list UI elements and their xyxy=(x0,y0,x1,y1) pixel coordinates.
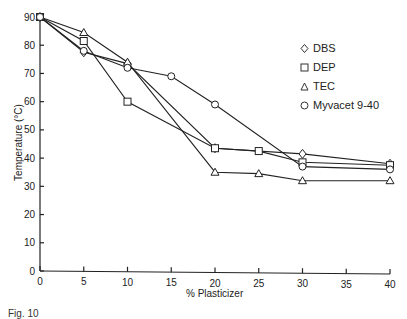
y-tick-label: 0 xyxy=(29,266,35,277)
y-tick-label: 80 xyxy=(24,40,36,51)
square-marker-icon xyxy=(212,145,219,152)
y-tick-label: 90 xyxy=(24,12,36,23)
legend-item-tec: TEC xyxy=(300,77,379,96)
circle-marker-icon xyxy=(37,14,44,21)
circle-marker-icon xyxy=(212,101,219,108)
legend-label: DBS xyxy=(313,39,336,58)
triangle-marker-icon xyxy=(300,82,309,91)
square-marker-icon xyxy=(80,37,87,44)
x-tick-label: 0 xyxy=(37,276,43,287)
y-tick-label: 60 xyxy=(24,96,36,107)
x-tick-label: 5 xyxy=(81,276,87,287)
legend-item-dep: DEP xyxy=(300,58,379,77)
x-axis-label: % Plasticizer xyxy=(186,288,243,299)
y-tick-label: 20 xyxy=(24,209,36,220)
x-tick-label: 10 xyxy=(122,277,134,288)
legend-label: TEC xyxy=(313,77,335,96)
x-tick-label: 30 xyxy=(297,278,309,289)
diamond-marker-icon xyxy=(300,44,309,53)
circle-marker-icon xyxy=(300,101,309,110)
figure-caption: Fig. 10 xyxy=(8,308,39,319)
y-tick-label: 30 xyxy=(24,181,36,192)
square-marker-icon xyxy=(255,148,262,155)
x-tick-label: 25 xyxy=(253,278,265,289)
y-axis-label: Temperature (°C) xyxy=(13,93,24,193)
x-tick-label: 20 xyxy=(209,278,221,289)
legend-item-myvacet: Myvacet 9-40 xyxy=(300,96,379,115)
x-tick-label: 40 xyxy=(384,279,396,290)
diamond-marker-icon xyxy=(299,149,306,158)
circle-marker-icon xyxy=(387,166,394,173)
y-tick-label: 70 xyxy=(24,68,36,79)
legend: DBS DEP TEC Myvacet 9-40 xyxy=(300,39,379,115)
legend-label: Myvacet 9-40 xyxy=(313,96,379,115)
square-marker-icon xyxy=(300,63,309,72)
circle-marker-icon xyxy=(168,73,175,80)
x-tick-label: 15 xyxy=(166,277,178,288)
circle-marker-icon xyxy=(124,64,131,71)
x-tick-label: 35 xyxy=(341,279,353,290)
square-marker-icon xyxy=(124,98,131,105)
y-tick-label: 10 xyxy=(24,237,36,248)
legend-label: DEP xyxy=(313,58,336,77)
y-tick-label: 40 xyxy=(24,153,36,164)
circle-marker-icon xyxy=(299,163,306,170)
legend-item-dbs: DBS xyxy=(300,39,379,58)
circle-marker-icon xyxy=(80,47,87,54)
y-tick-label: 50 xyxy=(24,124,36,135)
